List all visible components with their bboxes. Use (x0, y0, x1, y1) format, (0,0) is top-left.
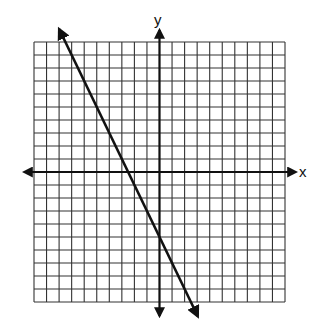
x-axis-label: x (299, 163, 307, 180)
coordinate-plane: x y (0, 0, 322, 329)
axes (24, 30, 296, 316)
y-axis-label: y (154, 11, 162, 28)
